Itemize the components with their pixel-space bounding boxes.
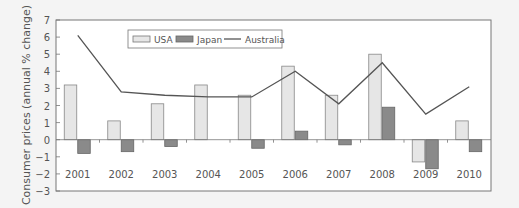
y-tick-label: 3 (44, 83, 50, 94)
y-tick-label: 1 (44, 118, 50, 129)
x-tick-label: 2002 (109, 169, 134, 180)
x-tick-label: 2009 (413, 169, 438, 180)
legend-australia-label: Australia (245, 35, 285, 45)
bar-usa (108, 121, 121, 140)
y-tick-label: 2 (44, 101, 50, 112)
x-tick-label: 2008 (370, 169, 395, 180)
bar-usa (282, 66, 295, 140)
y-tick-label: 7 (44, 15, 50, 26)
y-tick-label: 6 (44, 32, 50, 43)
x-tick-label: 2001 (65, 169, 90, 180)
bar-japan (382, 107, 395, 139)
chart-canvas: −3−2−101234567 2001200220032004200520062… (0, 0, 519, 208)
bar-usa (369, 54, 382, 140)
bar-japan (121, 140, 134, 152)
x-tick-label: 2003 (152, 169, 177, 180)
x-tick-label: 2005 (239, 169, 264, 180)
bar-japan (252, 140, 265, 149)
legend-japan-label: Japan (196, 35, 222, 45)
y-tick-label: −1 (35, 152, 50, 163)
legend-japan-swatch (176, 36, 193, 42)
y-tick-label: −3 (35, 186, 50, 197)
bar-japan (78, 140, 91, 154)
x-tick-label: 2006 (283, 169, 308, 180)
y-tick-label: 0 (44, 135, 50, 146)
bar-usa (238, 95, 251, 139)
bar-japan (339, 140, 352, 145)
bar-usa (412, 140, 425, 162)
chart: −3−2−101234567 2001200220032004200520062… (0, 0, 519, 208)
bar-japan (165, 140, 178, 147)
legend: USA Japan Australia (128, 30, 285, 48)
bar-usa (64, 85, 77, 140)
bar-usa (456, 121, 469, 140)
bar-japan (469, 140, 482, 152)
y-tick-label: −2 (35, 169, 50, 180)
bar-japan (426, 140, 439, 169)
y-axis-label: Consumer prices (annual % change) (20, 5, 33, 205)
legend-usa-swatch (133, 36, 150, 42)
y-tick-label: 4 (44, 66, 50, 77)
y-tick-label: 5 (44, 49, 50, 60)
legend-usa-label: USA (154, 35, 173, 45)
x-tick-label: 2007 (326, 169, 351, 180)
bar-usa (151, 104, 164, 140)
x-tick-label: 2004 (196, 169, 221, 180)
x-tick-label: 2010 (457, 169, 482, 180)
bar-japan (295, 131, 308, 140)
bar-usa (195, 85, 208, 140)
